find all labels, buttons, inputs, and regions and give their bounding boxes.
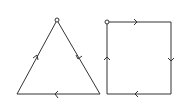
square-figure [104, 19, 174, 97]
triangle-figure [17, 18, 100, 98]
start-point-icon [55, 18, 59, 22]
triangle-left-edge [17, 22, 56, 94]
arrow-down-right-icon [76, 55, 82, 59]
start-point-icon [105, 20, 109, 24]
diagram-canvas [0, 0, 185, 108]
